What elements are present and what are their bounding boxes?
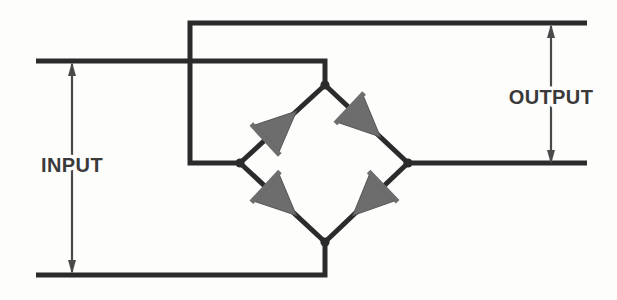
junction-dot-group [235, 80, 412, 246]
output-dimension: OUTPUT OUTPUT [509, 24, 594, 164]
bridge-rectifier-diagram: INPUT INPUT OUTPUT OUTPUT [0, 0, 617, 300]
output-dimension-arrowhead-top [547, 24, 555, 38]
bridge-left-node [235, 158, 244, 167]
input-dimension-arrowhead-bottom [68, 260, 76, 274]
circuit-schematic-svg: INPUT INPUT OUTPUT OUTPUT [0, 0, 617, 300]
output-label: OUTPUT [509, 86, 594, 108]
input-dimension: INPUT INPUT [41, 62, 103, 274]
bridge-top-node [320, 80, 329, 89]
input-top-rail-wire [36, 61, 325, 85]
input-bottom-rail-wire [36, 242, 325, 275]
bridge-diamond-group [240, 85, 408, 242]
bridge-right-node [403, 158, 412, 167]
wire-group [36, 23, 587, 275]
bridge-bottom-node [320, 237, 329, 246]
input-dimension-arrowhead-top [68, 62, 76, 76]
input-label: INPUT [41, 154, 103, 176]
